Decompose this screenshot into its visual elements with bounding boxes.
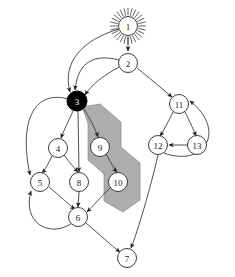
node-9[interactable]: 9 xyxy=(91,138,110,157)
node-12[interactable]: 12 xyxy=(149,136,168,155)
edge-6-to-5 xyxy=(29,191,71,229)
edge-6-to-7 xyxy=(86,223,120,252)
graph-figure: 12345678910111213 xyxy=(0,0,235,277)
edge-4-to-8 xyxy=(64,155,78,172)
node-6[interactable]: 6 xyxy=(69,208,88,227)
node-label-12: 12 xyxy=(154,141,163,151)
node-7[interactable]: 7 xyxy=(118,249,137,268)
edge-2-to-11 xyxy=(137,68,172,97)
node-label-6: 6 xyxy=(76,213,81,223)
node-11[interactable]: 11 xyxy=(170,95,189,114)
node-label-11: 11 xyxy=(175,100,184,110)
edge-3-to-4 xyxy=(61,111,73,138)
node-label-1: 1 xyxy=(126,22,131,32)
edge-11-to-13 xyxy=(185,112,196,136)
edge-2-to-3 xyxy=(75,58,119,90)
node-8[interactable]: 8 xyxy=(70,173,89,192)
edge-3-to-8 xyxy=(78,111,79,172)
node-label-4: 4 xyxy=(56,144,61,154)
node-label-8: 8 xyxy=(77,178,82,188)
node-label-13: 13 xyxy=(193,141,203,151)
node-2[interactable]: 2 xyxy=(119,54,138,73)
node-13[interactable]: 13 xyxy=(188,136,207,155)
node-label-10: 10 xyxy=(114,178,124,188)
edge-2-to-3 xyxy=(85,67,119,95)
edge-4-to-5 xyxy=(42,156,52,173)
edge-5-to-6 xyxy=(49,187,75,209)
node-label-3: 3 xyxy=(75,97,80,107)
edge-8-to-6 xyxy=(78,192,79,207)
node-3[interactable]: 3 xyxy=(67,91,87,111)
node-5[interactable]: 5 xyxy=(31,173,50,192)
node-label-9: 9 xyxy=(98,143,103,153)
node-label-7: 7 xyxy=(125,254,130,264)
node-10[interactable]: 10 xyxy=(109,173,128,192)
edge-11-to-12 xyxy=(160,112,173,136)
graph-canvas: 12345678910111213 xyxy=(0,0,235,277)
node-label-5: 5 xyxy=(38,178,43,188)
node-label-2: 2 xyxy=(126,59,131,69)
node-1[interactable]: 1 xyxy=(110,8,146,44)
node-4[interactable]: 4 xyxy=(49,139,68,158)
